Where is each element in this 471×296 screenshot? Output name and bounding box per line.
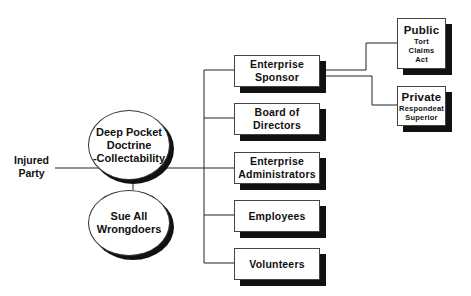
employees-box: Employees xyxy=(234,200,320,232)
private-box: Private Respondeat Superior xyxy=(397,86,446,126)
injured-party-label: Injured Party xyxy=(14,154,49,180)
sue-all-ellipse: Sue All Wrongdoers xyxy=(88,190,170,256)
public-box: Public Tort Claims Act xyxy=(397,18,446,69)
enterprise-sponsor-box: Enterprise Sponsor xyxy=(234,55,320,87)
volunteers-box: Volunteers xyxy=(234,248,320,280)
deep-pocket-ellipse: Deep Pocket Doctrine -Collectability xyxy=(88,110,170,180)
enterprise-administrators-box: Enterprise Administrators xyxy=(234,152,320,184)
board-of-directors-box: Board of Directors xyxy=(234,103,320,135)
